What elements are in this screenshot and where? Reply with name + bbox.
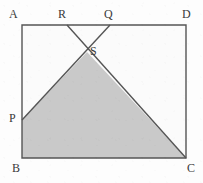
vertex-label-D: D <box>182 8 191 20</box>
vertex-label-B: B <box>12 162 20 174</box>
vertex-label-S: S <box>90 45 97 57</box>
vertex-label-P: P <box>9 112 16 124</box>
geometry-figure: A R Q D S P B C <box>0 0 203 183</box>
vertex-label-A: A <box>9 8 18 20</box>
vertex-label-R: R <box>58 8 66 20</box>
vertex-label-Q: Q <box>104 8 113 20</box>
diagram-canvas <box>0 0 203 183</box>
vertex-label-C: C <box>187 162 195 174</box>
